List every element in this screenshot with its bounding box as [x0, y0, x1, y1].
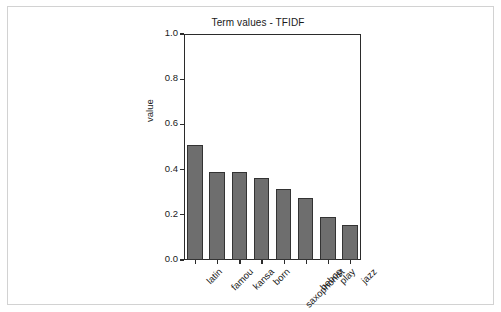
x-axis: latinfamoukansabornsaxophonistbebopplayj… — [184, 260, 361, 304]
x-tick-mark — [284, 260, 285, 264]
x-tick-mark — [217, 260, 218, 264]
x-tick-mark — [239, 260, 240, 264]
x-tick-label: latin — [204, 266, 224, 286]
y-axis-title: value — [144, 99, 155, 122]
x-tick-mark — [306, 260, 307, 264]
bar — [276, 189, 291, 260]
bar — [320, 217, 335, 260]
bar — [298, 198, 313, 260]
bar — [187, 145, 202, 260]
x-tick-mark — [350, 260, 351, 264]
y-tick-label: 0.6 — [165, 117, 178, 128]
bar — [254, 178, 269, 260]
bar — [209, 172, 224, 260]
y-axis: 0.00.20.40.60.81.0 — [138, 34, 184, 260]
y-tick-label: 0.4 — [165, 163, 178, 174]
x-tick-mark — [195, 260, 196, 264]
bar-series — [184, 34, 361, 260]
x-tick-label: jazz — [359, 266, 379, 286]
x-tick-label: famou — [229, 266, 255, 292]
bar-chart: Term values - TFIDF 0.00.20.40.60.81.0 v… — [138, 9, 378, 304]
bar — [232, 172, 247, 260]
y-tick-label: 1.0 — [165, 27, 178, 38]
x-tick-mark — [261, 260, 262, 264]
figure-card: Term values - TFIDF 0.00.20.40.60.81.0 v… — [7, 6, 494, 305]
bar — [342, 225, 357, 260]
x-tick-mark — [328, 260, 329, 264]
y-tick-label: 0.2 — [165, 208, 178, 219]
x-tick-label: born — [271, 266, 292, 287]
y-tick-label: 0.0 — [165, 253, 178, 264]
y-tick-label: 0.8 — [165, 72, 178, 83]
